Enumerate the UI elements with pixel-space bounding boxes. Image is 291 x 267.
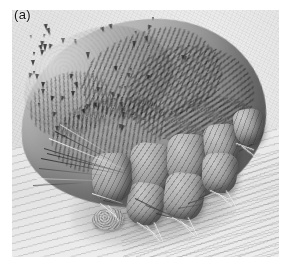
figure-root: (a)	[0, 0, 291, 267]
spine	[132, 41, 137, 49]
spine	[35, 74, 40, 80]
spine	[71, 91, 75, 97]
spine	[134, 30, 137, 34]
spine	[123, 86, 126, 90]
spine	[41, 89, 45, 95]
sem-micrograph-image	[12, 10, 279, 257]
spine	[119, 86, 122, 90]
spine	[31, 60, 35, 66]
spine	[152, 17, 154, 21]
spine	[126, 73, 131, 80]
panel-label: (a)	[14, 7, 31, 22]
spine	[29, 35, 32, 39]
spine	[49, 96, 54, 103]
spine	[38, 44, 43, 51]
spine	[61, 38, 65, 44]
spine	[86, 52, 90, 60]
spine	[181, 55, 185, 61]
spine	[108, 23, 113, 30]
